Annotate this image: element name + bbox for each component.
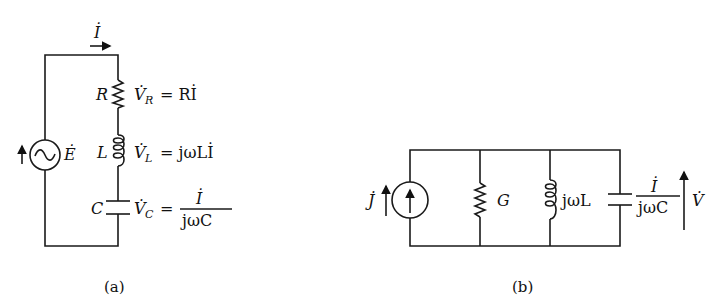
inductor-icon [114,135,125,166]
capacitor-symbol: C [91,199,103,218]
conductance-icon [475,183,485,217]
inductor-b-icon [546,180,557,219]
source-label-b: J̇ [365,191,376,210]
conductance-label: G [497,191,510,210]
current-label: İ [93,22,101,42]
svg-text:C: C [145,208,154,221]
caption-a: (a) [104,278,125,296]
vc-numerator: İ [195,188,203,208]
vr-equation: = Rİ [160,84,197,104]
svg-text:R: R [144,94,153,107]
inductor-b-label: jωL [560,191,591,210]
vl-equation: = jωLİ [160,142,213,162]
capacitor-b-denominator: jωC [636,198,668,217]
resistor-icon [113,80,123,108]
source-label: Ė [63,144,76,164]
svg-text:L: L [144,152,152,165]
caption-b: (b) [512,278,533,296]
voltage-label: V̇ [692,191,705,210]
resistor-symbol: R [95,85,108,104]
capacitor-b-numerator: İ [650,176,658,196]
circuit-a: İ Ė R V̇ R = Rİ L V̇ L = jωLİ C V̇ C = İ… [22,22,232,296]
vc-denominator: jωC [180,211,212,230]
svg-text:=: = [160,199,173,218]
circuit-b: J̇ G jωL İ jωC V̇ (b) [365,150,705,296]
sine-icon [35,150,55,160]
inductor-symbol: L [96,143,108,162]
